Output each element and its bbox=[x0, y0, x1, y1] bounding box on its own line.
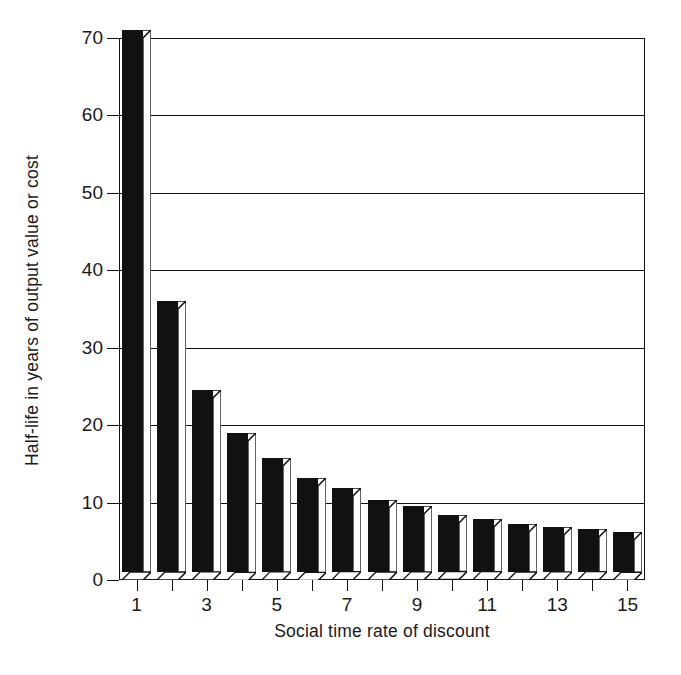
bar bbox=[613, 532, 642, 580]
x-tick-label: 11 bbox=[477, 594, 497, 616]
bar-bottom-face bbox=[543, 572, 572, 580]
bar bbox=[368, 500, 397, 580]
x-tick-mark bbox=[242, 580, 243, 591]
bar-side-face bbox=[178, 301, 186, 580]
bar-bottom-face bbox=[368, 572, 397, 580]
bar bbox=[438, 515, 467, 580]
x-tick-mark bbox=[347, 580, 348, 591]
x-tick-mark bbox=[487, 580, 488, 591]
x-tick-mark bbox=[382, 580, 383, 591]
x-tick-label: 1 bbox=[131, 594, 142, 616]
y-tick-mark bbox=[107, 115, 119, 116]
bar-bottom-face bbox=[157, 572, 186, 580]
x-tick-mark bbox=[627, 580, 628, 591]
bar-bottom-face bbox=[473, 572, 502, 580]
bar-bottom-face bbox=[227, 572, 256, 580]
bar-front-face bbox=[578, 529, 599, 572]
bar-bottom-face bbox=[297, 572, 326, 580]
y-tick-label: 60 bbox=[82, 104, 103, 126]
chart-figure: Half-life in years of output value or co… bbox=[0, 0, 681, 675]
gridline bbox=[119, 348, 645, 349]
bar-front-face bbox=[613, 532, 634, 572]
y-tick-mark bbox=[107, 38, 119, 39]
bar bbox=[508, 524, 537, 580]
x-tick-mark bbox=[557, 580, 558, 591]
x-tick-mark bbox=[522, 580, 523, 591]
bar-bottom-face bbox=[508, 572, 537, 580]
x-tick-mark bbox=[137, 580, 138, 591]
gridline bbox=[119, 193, 645, 194]
bar-bottom-face bbox=[438, 572, 467, 580]
y-tick-mark bbox=[107, 348, 119, 349]
bar-front-face bbox=[262, 458, 283, 572]
bar-front-face bbox=[438, 515, 459, 572]
y-tick-mark bbox=[107, 503, 119, 504]
bar-side-face bbox=[213, 390, 221, 580]
bar-bottom-face bbox=[122, 572, 151, 580]
y-tick-label: 30 bbox=[82, 337, 103, 359]
bar-side-face bbox=[494, 519, 502, 580]
y-tick-mark bbox=[107, 425, 119, 426]
y-tick-label: 0 bbox=[92, 569, 103, 591]
gridline bbox=[119, 115, 645, 116]
bar-front-face bbox=[403, 506, 424, 572]
x-tick-label: 3 bbox=[201, 594, 212, 616]
y-tick-label: 50 bbox=[82, 182, 103, 204]
bar bbox=[473, 519, 502, 580]
x-tick-mark bbox=[312, 580, 313, 591]
y-tick-label: 20 bbox=[82, 414, 103, 436]
bar-front-face bbox=[332, 488, 353, 572]
x-tick-mark bbox=[207, 580, 208, 591]
bar-side-face bbox=[459, 515, 467, 580]
bar bbox=[122, 30, 151, 580]
bar-front-face bbox=[368, 500, 389, 572]
bar-front-face bbox=[473, 519, 494, 572]
y-tick-label: 10 bbox=[82, 492, 103, 514]
bar bbox=[227, 433, 256, 580]
bar-front-face bbox=[227, 433, 248, 572]
bar-bottom-face bbox=[403, 572, 432, 580]
bar-front-face bbox=[192, 390, 213, 572]
bar bbox=[192, 390, 221, 580]
x-tick-mark bbox=[592, 580, 593, 591]
bar bbox=[262, 458, 291, 580]
bar-side-face bbox=[143, 30, 151, 580]
bar-side-face bbox=[424, 506, 432, 580]
bar-side-face bbox=[353, 488, 361, 580]
x-tick-mark bbox=[172, 580, 173, 591]
x-axis-title: Social time rate of discount bbox=[119, 621, 645, 642]
y-tick-mark bbox=[107, 270, 119, 271]
y-tick-label: 40 bbox=[82, 259, 103, 281]
bar-front-face bbox=[122, 30, 143, 572]
bar-bottom-face bbox=[192, 572, 221, 580]
x-tick-label: 13 bbox=[547, 594, 568, 616]
bar-side-face bbox=[318, 478, 326, 580]
bar-bottom-face bbox=[332, 572, 361, 580]
bar bbox=[157, 301, 186, 580]
bar-bottom-face bbox=[578, 572, 607, 580]
bar-front-face bbox=[543, 527, 564, 572]
gridline bbox=[119, 270, 645, 271]
bar-front-face bbox=[508, 524, 529, 572]
bar bbox=[297, 478, 326, 580]
x-tick-mark bbox=[452, 580, 453, 591]
x-tick-label: 15 bbox=[617, 594, 638, 616]
bar-side-face bbox=[248, 433, 256, 580]
x-tick-label: 7 bbox=[342, 594, 353, 616]
bar-front-face bbox=[297, 478, 318, 572]
y-tick-label: 70 bbox=[82, 27, 103, 49]
bar bbox=[543, 527, 572, 580]
x-tick-label: 9 bbox=[412, 594, 423, 616]
y-tick-mark bbox=[107, 193, 119, 194]
y-tick-mark bbox=[107, 580, 119, 581]
x-tick-label: 5 bbox=[272, 594, 283, 616]
bar-side-face bbox=[389, 500, 397, 580]
x-tick-mark bbox=[417, 580, 418, 591]
bar bbox=[578, 529, 607, 580]
bar-side-face bbox=[283, 458, 291, 580]
bar-front-face bbox=[157, 301, 178, 572]
y-axis-title: Half-life in years of output value or co… bbox=[22, 51, 43, 571]
bar-bottom-face bbox=[613, 572, 642, 580]
bar-bottom-face bbox=[262, 572, 291, 580]
bar bbox=[403, 506, 432, 580]
